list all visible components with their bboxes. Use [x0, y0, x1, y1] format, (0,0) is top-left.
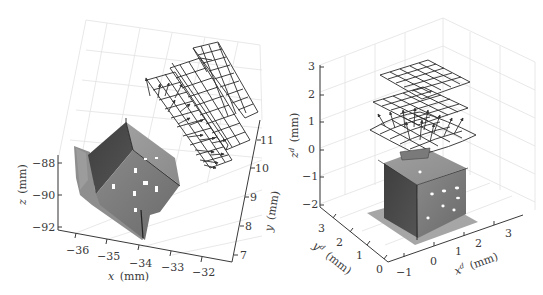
- left-z-tick: −92: [32, 221, 55, 234]
- right-z-tick: 3: [308, 60, 315, 73]
- right-z-tick: 2: [308, 88, 315, 101]
- left-x-tick: −33: [161, 261, 184, 274]
- right-displacement-vectors: [378, 108, 463, 142]
- left-y-tick: 10: [255, 162, 269, 175]
- left-x-tick: −34: [129, 257, 152, 270]
- right-z-axis-label: zd (mm): [288, 113, 301, 159]
- left-x-tick: −32: [192, 266, 215, 279]
- right-z-tick: −2: [302, 198, 318, 211]
- left-cube-surface: [74, 118, 180, 240]
- left-x-tick: −35: [97, 250, 120, 263]
- right-y-axis-label: yd (mm): [309, 239, 354, 278]
- right-y-tick: 3: [318, 222, 325, 235]
- right-x-tick: 2: [475, 237, 482, 250]
- left-y-axis-label: y (mm): [262, 190, 282, 234]
- right-z-tick: 0: [308, 143, 315, 156]
- right-x-tick: 1: [455, 245, 462, 258]
- left-x-axis-label: x (mm): [108, 270, 149, 283]
- right-x-tick: −1: [396, 266, 412, 279]
- right-z-tick: −1: [302, 170, 318, 183]
- right-plot: 3 2 1 0 −1 −2 zd (mm) 3 2 1 0 yd (mm) −1…: [288, 18, 535, 279]
- left-x-tick: −36: [66, 244, 89, 257]
- left-z-tick: −90: [32, 189, 55, 202]
- left-z-axis-label: z (mm): [16, 164, 29, 206]
- left-y-tick: 7: [240, 249, 247, 262]
- left-y-tick: 11: [260, 134, 274, 147]
- right-x-tick: 3: [505, 227, 512, 240]
- right-cube-surface: [367, 148, 478, 245]
- right-y-tick: 2: [336, 236, 343, 249]
- left-y-tick: 9: [250, 191, 257, 204]
- right-z-tick: 1: [308, 115, 315, 128]
- left-z-tick: −88: [32, 157, 55, 170]
- left-y-tick: 8: [245, 220, 252, 233]
- left-plot: −88 −90 −92 z (mm) −36 −35 −34 −33 −32 x…: [16, 20, 282, 283]
- right-x-tick: 0: [430, 255, 437, 268]
- right-y-tick: 1: [356, 249, 363, 262]
- right-y-tick: 0: [376, 263, 383, 276]
